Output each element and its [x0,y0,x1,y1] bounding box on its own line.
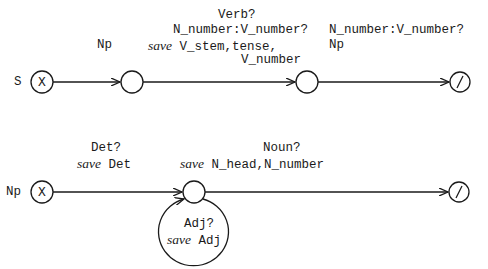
save-keyword: save [148,38,172,53]
np-arc2-save: save N_head,N_number [180,156,324,173]
np-arc2-save-value: N_head,N_number [212,158,325,172]
s-node-3 [296,71,318,93]
s-arc2-save-value: V_stem,tense, [180,40,278,54]
s-start-symbol: X [36,76,48,89]
network-name-s: S [14,75,22,90]
np-node-2 [183,181,205,203]
np-final-slash [456,186,462,198]
s-node-2 [121,71,143,93]
np-loop-save-value: Adj [199,234,222,248]
np-arc1-save-value: Det [109,158,132,172]
save-keyword: save [167,232,191,247]
s-arc2-save-cont: V_number [241,53,301,68]
s-final-slash [457,76,463,88]
np-arc1-save: save Det [77,156,131,173]
np-start-symbol: X [36,186,48,199]
s-arc2-test: Verb? [218,8,256,23]
save-keyword: save [180,156,204,171]
s-arc3-condition: N_number:V_number? [329,23,464,38]
np-arc1-test: Det? [91,141,121,156]
np-loop-save: save Adj [167,232,221,249]
s-arc1-label: Np [97,38,112,53]
np-arc2-test: Noun? [263,141,301,156]
network-name-np: Np [6,185,21,200]
s-arc2-condition: N_number:V_number? [173,23,308,38]
save-keyword: save [77,156,101,171]
s-arc3-label: Np [329,38,344,53]
atn-diagram: S Np X X Np Verb? N_number:V_number? sav… [0,0,488,269]
np-loop-test: Adj? [184,217,214,232]
